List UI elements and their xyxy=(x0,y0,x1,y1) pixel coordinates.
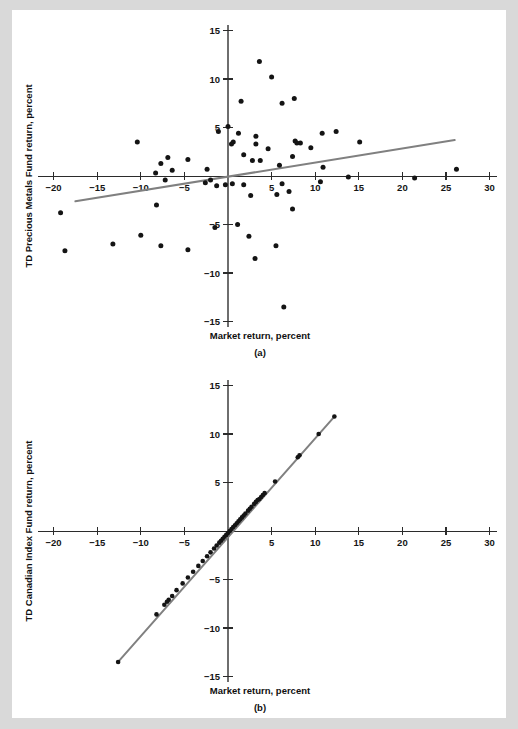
data-point xyxy=(239,99,244,104)
x-tick-label: 20 xyxy=(397,182,408,193)
data-point xyxy=(290,154,295,159)
data-point xyxy=(274,192,279,197)
data-point xyxy=(241,152,246,157)
figure-canvas: −20−15−10−55101520253015105−5−10−15Marke… xyxy=(12,10,506,718)
data-point xyxy=(266,146,271,151)
data-point xyxy=(321,165,326,170)
x-tick-label: 15 xyxy=(354,182,365,193)
panel-label: (a) xyxy=(254,347,266,358)
x-tick-label: −5 xyxy=(179,537,191,548)
data-point xyxy=(229,141,234,146)
data-point xyxy=(153,171,158,176)
data-point xyxy=(346,174,351,179)
data-point xyxy=(185,157,190,162)
data-point xyxy=(135,140,140,145)
data-point xyxy=(200,559,205,564)
data-point xyxy=(212,546,217,551)
data-point xyxy=(158,243,163,248)
data-point xyxy=(290,206,295,211)
data-point xyxy=(334,129,339,134)
data-point xyxy=(185,247,190,252)
figure-panel-a: −20−15−10−55101520253015105−5−10−15Marke… xyxy=(12,10,506,365)
data-point xyxy=(253,256,258,261)
x-tick-label: 25 xyxy=(441,537,452,548)
data-point xyxy=(280,181,285,186)
data-point xyxy=(280,101,285,106)
data-point xyxy=(158,161,163,166)
data-point xyxy=(287,189,292,194)
data-point xyxy=(250,158,255,163)
x-tick-label: 15 xyxy=(354,537,365,548)
data-point xyxy=(186,575,191,580)
data-point xyxy=(273,479,278,484)
data-point xyxy=(277,163,282,168)
data-point xyxy=(205,554,210,559)
y-axis-title: TD Precious Metals Fund return, percent xyxy=(23,84,34,268)
data-point xyxy=(246,234,251,239)
data-point xyxy=(357,140,362,145)
y-tick-label: −10 xyxy=(204,268,220,279)
x-axis-title: Market return, percent xyxy=(210,685,311,696)
data-point xyxy=(253,134,258,139)
data-point xyxy=(273,243,278,248)
y-tick-label: 15 xyxy=(209,25,220,36)
data-point xyxy=(196,564,201,569)
data-point xyxy=(316,432,321,437)
x-tick-label: 30 xyxy=(484,182,495,193)
data-point xyxy=(205,167,210,172)
data-point xyxy=(292,96,297,101)
panel-label: (b) xyxy=(254,702,266,713)
regression-line xyxy=(118,417,334,662)
data-point xyxy=(454,167,459,172)
y-tick-label: −10 xyxy=(204,623,220,634)
data-point xyxy=(203,180,208,185)
data-point xyxy=(212,225,217,230)
y-tick-label: 15 xyxy=(209,380,220,391)
axes-group xyxy=(38,380,497,683)
x-tick-label: 30 xyxy=(484,537,495,548)
data-point xyxy=(180,581,185,586)
data-point xyxy=(116,660,121,665)
data-point xyxy=(62,248,67,253)
data-point xyxy=(208,550,213,555)
data-point xyxy=(226,124,231,129)
data-point xyxy=(235,222,240,227)
x-tick-label: −20 xyxy=(46,182,62,193)
x-tick-label: −15 xyxy=(89,182,106,193)
data-point xyxy=(162,602,167,607)
scatter-plot-a: −20−15−10−55101520253015105−5−10−15Marke… xyxy=(12,10,506,365)
y-axis-title: TD Canadian Index Fund return, percent xyxy=(23,440,34,622)
data-point xyxy=(253,141,258,146)
data-point xyxy=(318,179,323,184)
x-tick-label: 5 xyxy=(269,182,275,193)
data-point xyxy=(298,141,303,146)
x-tick-label: −20 xyxy=(46,537,62,548)
data-point xyxy=(163,177,168,182)
data-point xyxy=(58,210,63,215)
data-point xyxy=(248,193,253,198)
data-point xyxy=(281,304,286,309)
y-tick-label: −5 xyxy=(209,574,221,585)
x-axis-ticks: −20−15−10−551015202530 xyxy=(46,527,495,548)
data-point xyxy=(269,75,274,80)
x-tick-label: 20 xyxy=(397,537,408,548)
axes-group xyxy=(38,25,497,328)
data-point xyxy=(154,612,159,617)
y-tick-label: −15 xyxy=(204,671,221,682)
data-point xyxy=(332,414,337,419)
x-tick-label: 10 xyxy=(310,537,321,548)
data-point xyxy=(170,168,175,173)
data-point xyxy=(223,182,228,187)
y-tick-label: 10 xyxy=(209,429,220,440)
data-point xyxy=(241,182,246,187)
data-point xyxy=(214,183,219,188)
figure-panel-b: −20−15−10−55101520253015105−5−10−15Marke… xyxy=(12,365,506,718)
data-point xyxy=(230,181,235,186)
data-point xyxy=(170,594,175,599)
data-point xyxy=(320,131,325,136)
data-point xyxy=(208,177,213,182)
figure-page: −20−15−10−55101520253015105−5−10−15Marke… xyxy=(0,0,518,729)
data-point xyxy=(236,131,241,136)
x-axis-ticks: −20−15−10−551015202530 xyxy=(46,172,495,193)
x-tick-label: 25 xyxy=(441,182,452,193)
